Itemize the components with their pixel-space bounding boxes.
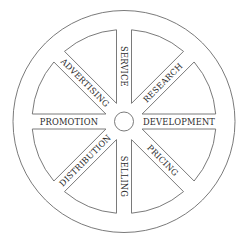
spoke-label-distribution: DISTRIBUTION: [57, 132, 113, 188]
spoke-label-research: RESEARCH: [141, 61, 184, 104]
spoke-labels: DEVELOPMENT PRICING SELLING DISTRIBUTION…: [40, 46, 216, 197]
hub-circle: [115, 112, 134, 131]
spoke-label-advertising: ADVERTISING: [58, 56, 111, 109]
marketing-wheel-diagram: DEVELOPMENT PRICING SELLING DISTRIBUTION…: [0, 0, 249, 244]
spoke-label-promotion: PROMOTION: [40, 117, 99, 127]
spoke-label-pricing: PRICING: [145, 143, 180, 178]
spoke-label-selling: SELLING: [119, 156, 129, 197]
spoke-label-development: DEVELOPMENT: [143, 117, 215, 127]
spoke-label-service: SERVICE: [119, 46, 129, 87]
